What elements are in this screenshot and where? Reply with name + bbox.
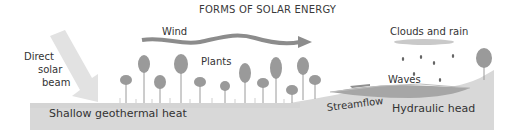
grass-tufts: [120, 98, 284, 103]
label-shallow-geothermal-heat: Shallow geothermal heat: [49, 108, 187, 119]
label-direct: Direct: [24, 52, 54, 62]
label-beam: beam: [42, 78, 70, 88]
label-clouds-and-rain: Clouds and rain: [390, 27, 468, 37]
label-solar: solar: [38, 65, 62, 75]
diagram-title: FORMS OF SOLAR ENERGY: [199, 5, 336, 15]
label-wind: Wind: [162, 27, 187, 37]
label-hydraulic-head: Hydraulic head: [392, 103, 475, 114]
cloud-icon: [394, 39, 454, 45]
label-plants: Plants: [201, 57, 231, 67]
label-waves: Waves: [388, 75, 421, 85]
